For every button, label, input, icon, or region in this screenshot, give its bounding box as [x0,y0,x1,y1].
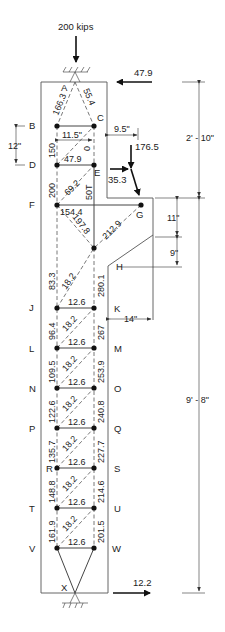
dim-bc: 11.5" [62,130,82,140]
node-label-e: E [94,167,100,178]
force-vw: 12.6 [68,537,86,547]
force-km: 267 [96,325,106,340]
force-uw: 201.5 [96,520,106,543]
corbel-horizontal-load-label: 35.3 [108,174,127,185]
dim-corbel-offset: 9.5" [114,124,130,134]
node-label-p: P [29,423,35,434]
node-label-a: A [61,82,68,93]
node-label-s: S [114,463,120,474]
force-pr: 135.7 [47,440,57,463]
force-oq: 240.8 [96,400,106,423]
force-ce: 0 [82,146,92,151]
bottom-support-icon [62,593,88,608]
node-label-n: N [29,383,36,394]
force-jk: 12.6 [68,297,86,307]
node-label-b: B [29,120,35,131]
force-no-diag: 18.2 [60,354,79,374]
node-label-f: F [29,199,35,210]
dim-upper-height: 2' - 10" [186,133,214,143]
top-horizontal-load-label: 47.9 [134,67,153,78]
top-load-label: 200 kips [58,21,94,32]
force-rt: 148.8 [47,480,57,503]
node-label-r: R [46,463,53,474]
node-label-m: M [114,343,122,354]
force-rs: 12.6 [68,457,86,467]
force-np: 122.6 [47,400,57,423]
force-g-diag: 212.9 [100,218,123,241]
dimension-lines [15,82,205,593]
dim-bd: 12" [8,141,21,151]
force-tu: 12.6 [68,497,86,507]
force-k-vert: 280.1 [96,274,106,297]
force-qs: 227.7 [96,440,106,463]
force-rs-diag: 18.2 [60,434,79,454]
node-label-t: T [29,503,35,514]
node-label-g: G [136,209,143,220]
node-label-q: Q [114,423,121,434]
force-de: 47.9 [64,154,82,164]
dim-corbel-width: 14" [124,314,137,324]
node-label-v: V [29,543,36,554]
force-jk-diag: 18.2 [59,271,77,291]
force-tv: 161.9 [47,520,57,543]
node-label-l: L [29,343,34,354]
top-support-icon [63,67,90,82]
force-pq-diag: 18.2 [60,394,79,414]
force-no: 12.6 [68,377,86,387]
force-vw-diag: 18.2 [60,514,79,534]
node-label-k: K [114,303,121,314]
node-label-h: H [116,261,123,272]
force-lm: 12.6 [68,337,86,347]
force-su: 214.6 [96,480,106,503]
node-label-u: U [114,503,121,514]
force-tu-diag: 18.2 [60,474,79,494]
force-fj: 83.3 [47,272,57,290]
force-ac: 55.4 [81,87,97,107]
force-jl: 96.4 [47,322,57,340]
node-label-x: X [61,582,68,593]
force-bd: 150 [47,143,57,158]
dim-corbel-slope: 9" [170,248,178,258]
force-ln: 109.5 [47,360,57,383]
force-ab: 166.3 [51,92,69,117]
strut-and-tie-diagram: 200 kips 47.9 176.5 35.3 12.2 11.5" 12" … [0,0,225,632]
corbel-vertical-load-label: 176.5 [135,141,159,152]
node-label-w: W [112,543,121,554]
force-e-vert: 50T [84,184,94,200]
force-mo: 253.9 [96,360,106,383]
node-label-o: O [114,383,121,394]
dim-corbel-top: 11" [167,213,180,223]
node-label-c: C [97,112,104,123]
node-label-d: D [29,159,36,170]
dim-lower-height: 9' - 8" [186,395,209,405]
force-lm-diag: 18.2 [60,314,79,334]
force-pq: 12.6 [68,417,86,427]
force-df: 200 [47,183,57,198]
node-label-j: J [29,302,34,313]
bottom-horizontal-load-label: 12.2 [133,577,152,588]
force-f-diag: 197.8 [70,212,92,236]
